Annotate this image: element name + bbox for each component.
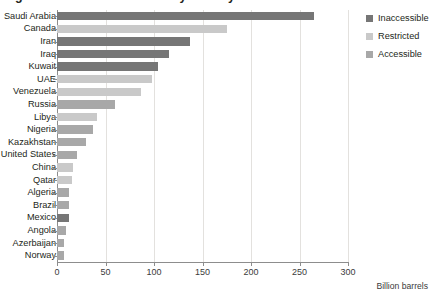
- x-axis-tick: [154, 262, 155, 266]
- y-axis-category-label: Mexico: [27, 212, 56, 222]
- bar[interactable]: [57, 251, 64, 259]
- y-axis-tick: [53, 67, 57, 68]
- bar-row[interactable]: [57, 86, 348, 99]
- bar-row[interactable]: [57, 199, 348, 212]
- bar-row[interactable]: [57, 111, 348, 124]
- y-axis-category-label: Norway: [25, 250, 56, 260]
- y-axis-tick: [53, 54, 57, 55]
- y-axis-category-label: Nigeria: [27, 124, 56, 134]
- bar[interactable]: [57, 100, 115, 108]
- x-axis-tick: [300, 262, 301, 266]
- bar-row[interactable]: [57, 123, 348, 136]
- x-axis-tick-label: 250: [292, 267, 307, 277]
- bar-row[interactable]: [57, 35, 348, 48]
- x-axis-tick: [57, 262, 58, 266]
- y-axis-category-label: Venezuela: [13, 86, 56, 96]
- bar-row[interactable]: [57, 98, 348, 111]
- plot-area: [57, 10, 348, 262]
- bar[interactable]: [57, 201, 69, 209]
- x-axis-tick-label: 300: [340, 267, 355, 277]
- legend-item-label: Restricted: [378, 31, 419, 41]
- legend-swatch-icon: [366, 33, 373, 40]
- bar[interactable]: [57, 138, 86, 146]
- y-axis-tick: [53, 105, 57, 106]
- bar[interactable]: [57, 125, 93, 133]
- y-axis-tick: [53, 231, 57, 232]
- y-axis-tick: [53, 193, 57, 194]
- bar-row[interactable]: [57, 73, 348, 86]
- x-axis-title: Billion barrels: [0, 281, 428, 291]
- bar[interactable]: [57, 151, 77, 159]
- y-axis-tick: [53, 218, 57, 219]
- bar[interactable]: [57, 37, 190, 45]
- bar[interactable]: [57, 50, 169, 58]
- bar[interactable]: [57, 62, 158, 70]
- y-axis-category-label: Saudi Arabia: [4, 11, 56, 21]
- bar[interactable]: [57, 239, 64, 247]
- legend-item[interactable]: Restricted: [366, 27, 436, 45]
- y-axis-tick: [53, 243, 57, 244]
- legend-item[interactable]: Inaccessible: [366, 9, 436, 27]
- legend-item[interactable]: Accessible: [366, 45, 436, 63]
- bar[interactable]: [57, 25, 227, 33]
- bar[interactable]: [57, 226, 66, 234]
- x-axis-tick: [251, 262, 252, 266]
- bar-row[interactable]: [57, 10, 348, 23]
- y-axis-tick: [53, 117, 57, 118]
- bar-row[interactable]: [57, 149, 348, 162]
- bar-row[interactable]: [57, 186, 348, 199]
- bar[interactable]: [57, 12, 314, 20]
- y-axis-category-label: Algeria: [27, 187, 56, 197]
- y-axis-category-label: Canada: [24, 23, 56, 33]
- x-axis-tick-label: 150: [195, 267, 210, 277]
- bar[interactable]: [57, 88, 141, 96]
- y-axis-tick: [53, 29, 57, 30]
- legend-item-label: Accessible: [378, 49, 422, 59]
- bar-row[interactable]: [57, 249, 348, 262]
- x-gridline: [348, 10, 349, 262]
- x-axis-tick-label: 0: [54, 267, 59, 277]
- y-axis-tick: [53, 155, 57, 156]
- y-axis-tick: [53, 142, 57, 143]
- bar[interactable]: [57, 163, 73, 171]
- legend-swatch-icon: [366, 51, 373, 58]
- chart-legend: InaccessibleRestrictedAccessible: [366, 9, 436, 63]
- x-axis-tick-label: 200: [243, 267, 258, 277]
- bar[interactable]: [57, 176, 72, 184]
- bar-row[interactable]: [57, 212, 348, 225]
- y-axis-category-label: Kazakhstan: [8, 137, 56, 147]
- y-axis-tick: [53, 168, 57, 169]
- y-axis-tick: [53, 256, 57, 257]
- oil-reserves-bar-chart: Figure 2. Global oil reserves by country…: [0, 0, 436, 295]
- x-axis-tick: [348, 262, 349, 266]
- bar-row[interactable]: [57, 48, 348, 61]
- bar-row[interactable]: [57, 136, 348, 149]
- bar-row[interactable]: [57, 237, 348, 250]
- y-axis-category-label: Kuwait: [28, 61, 56, 71]
- bar-row[interactable]: [57, 161, 348, 174]
- x-axis-tick: [106, 262, 107, 266]
- y-axis-tick: [53, 130, 57, 131]
- y-axis-tick: [53, 180, 57, 181]
- y-axis-tick: [53, 16, 57, 17]
- bar[interactable]: [57, 113, 97, 121]
- bar[interactable]: [57, 214, 69, 222]
- y-axis-category-label: Russia: [28, 99, 56, 109]
- legend-item-label: Inaccessible: [378, 13, 429, 23]
- y-axis-category-label: United States: [1, 149, 56, 159]
- bar-row[interactable]: [57, 224, 348, 237]
- bar-row[interactable]: [57, 23, 348, 36]
- legend-swatch-icon: [366, 15, 373, 22]
- x-axis-tick: [203, 262, 204, 266]
- bar[interactable]: [57, 188, 69, 196]
- y-axis-tick: [53, 205, 57, 206]
- bar-row[interactable]: [57, 174, 348, 187]
- bar[interactable]: [57, 75, 152, 83]
- x-axis-tick-label: 50: [100, 267, 110, 277]
- y-axis-tick: [53, 42, 57, 43]
- y-axis-category-label: Azerbaijan: [13, 238, 56, 248]
- bar-row[interactable]: [57, 60, 348, 73]
- y-axis-category-label: Angola: [27, 225, 56, 235]
- y-axis-tick: [53, 79, 57, 80]
- x-axis-tick-label: 100: [146, 267, 161, 277]
